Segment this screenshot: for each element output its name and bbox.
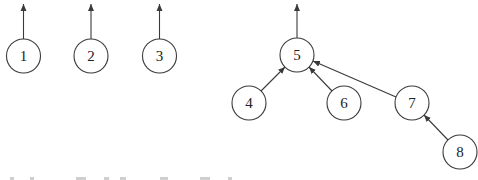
svg-text:7: 7 [408,95,416,111]
edge-4-to-5 [261,67,285,91]
edge-6-to-5 [309,67,332,91]
node-4: 4 [232,86,266,120]
svg-text:2: 2 [87,48,95,64]
svg-text:3: 3 [156,48,164,64]
svg-text:1: 1 [20,48,28,64]
clipped-caption [0,176,478,180]
node-7: 7 [395,86,429,120]
node-8: 8 [443,135,477,169]
node-5: 5 [280,38,314,72]
edge-8-to-7 [424,115,448,140]
node-1: 1 [7,39,41,73]
svg-text:8: 8 [456,144,464,160]
svg-text:4: 4 [245,95,253,111]
node-3: 3 [143,39,177,73]
svg-text:6: 6 [340,95,348,111]
disjoint-set-forest-diagram: 1 2 3 5 4 6 7 8 [0,0,478,180]
node-6: 6 [327,86,361,120]
node-2: 2 [74,39,108,73]
svg-text:5: 5 [293,47,301,63]
